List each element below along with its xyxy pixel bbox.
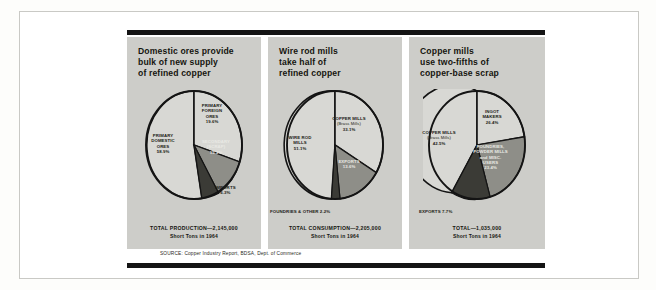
label-copper-mills: COPPER MILLS (Brass Mills) 42.5% — [415, 130, 463, 146]
headline-line-1: Domestic ores provide — [138, 46, 256, 57]
total-units: Short Tons in 1964 — [268, 233, 402, 240]
headline-line-3: of refined copper — [138, 68, 256, 79]
pie-chart-scrap: COPPER MILLS (Brass Mills) 42.5% INGOT M… — [409, 89, 545, 201]
total-scrap: TOTAL—1,035,000 — [409, 225, 545, 232]
label-foundries-powder-mills: FOUNDRIES, POWDER MILLS and MISC. USERS … — [467, 144, 514, 170]
chart-panel-production: Domestic ores provide bulk of new supply… — [127, 37, 261, 249]
total-consumption: TOTAL CONSUMPTION—2,205,000 — [268, 225, 402, 232]
label-primary-foreign-ores: PRIMARY FOREIGN ORES 19.6% — [191, 103, 233, 124]
total-production: TOTAL PRODUCTION—2,145,000 — [127, 225, 261, 232]
headline-line-2: use two-fifths of — [420, 57, 538, 68]
value-exports: 13.6% — [330, 164, 368, 169]
chart-footer-totals: TOTAL CONSUMPTION—2,205,000 Short Tons i… — [268, 225, 402, 240]
label-foundries-other: FOUNDRIES & OTHER 2.2% — [270, 209, 330, 214]
value-primary-domestic-ores: 58.9% — [141, 149, 185, 154]
value-copper-mills: 42.5% — [415, 141, 463, 146]
bottom-rule — [127, 263, 545, 268]
label-primary-domestic-ores: PRIMARY DOMESTIC ORES 58.9% — [141, 133, 185, 154]
total-units: Short Tons in 1964 — [409, 233, 545, 240]
headline-line-2: take half of — [279, 57, 397, 68]
pie-chart-consumption: WIRE ROD MILLS 51.1% COPPER MILLS (Brass… — [268, 89, 402, 201]
value-foundries-other: FOUNDRIES & OTHER 2.2% — [270, 209, 330, 214]
value-secondary-scrap: 15.2% — [194, 150, 238, 155]
chart-headline: Copper mills use two-fifths of copper-ba… — [420, 46, 538, 80]
chart-footer-totals: TOTAL—1,035,000 Short Tons in 1964 — [409, 225, 545, 240]
headline-line-1: Wire rod mills — [279, 46, 397, 57]
headline-line-3: copper-base scrap — [420, 68, 538, 79]
value-ingot-makers: 26.4% — [473, 120, 511, 125]
chart-panel-scrap: Copper mills use two-fifths of copper-ba… — [409, 37, 545, 249]
chart-headline: Wire rod mills take half of refined copp… — [279, 46, 397, 80]
label-copper-mills: COPPER MILLS (Brass Mills) 33.1% — [324, 116, 374, 132]
value-imports: 6.3% — [215, 190, 236, 195]
chart-footer-totals: TOTAL PRODUCTION—2,145,000 Short Tons in… — [127, 225, 261, 240]
total-units: Short Tons in 1964 — [127, 233, 261, 240]
value-foundries-powder-mills: 23.4% — [467, 165, 514, 170]
chart-panel-consumption: Wire rod mills take half of refined copp… — [268, 37, 402, 249]
headline-line-1: Copper mills — [420, 46, 538, 57]
label-secondary-scrap: SECONDARY (SCRAP) 15.2% — [194, 139, 238, 155]
headline-line-3: refined copper — [279, 68, 397, 79]
pie-chart-production: PRIMARY DOMESTIC ORES 58.9% PRIMARY FORE… — [127, 89, 261, 201]
label-ingot-makers: INGOT MAKERS 26.4% — [473, 109, 511, 125]
value-primary-foreign-ores: 19.6% — [191, 119, 233, 124]
label-exports: EXPORTS 13.6% — [330, 159, 368, 170]
value-exports: EXPORTS 7.7% — [419, 209, 452, 214]
source-note: SOURCE: Copper Industry Report, BDSA, De… — [160, 251, 301, 256]
label-wire-rod-mills: WIRE ROD MILLS 51.1% — [280, 135, 320, 151]
value-copper-mills: 33.1% — [324, 127, 374, 132]
headline-line-2: bulk of new supply — [138, 57, 256, 68]
label-imports: IMPORTS 6.3% — [215, 185, 236, 196]
label-exports: EXPORTS 7.7% — [419, 209, 452, 214]
value-wire-rod-mills: 51.1% — [280, 146, 320, 151]
top-rule — [127, 30, 545, 35]
figure-page: Domestic ores provide bulk of new supply… — [0, 0, 656, 290]
chart-headline: Domestic ores provide bulk of new supply… — [138, 46, 256, 80]
